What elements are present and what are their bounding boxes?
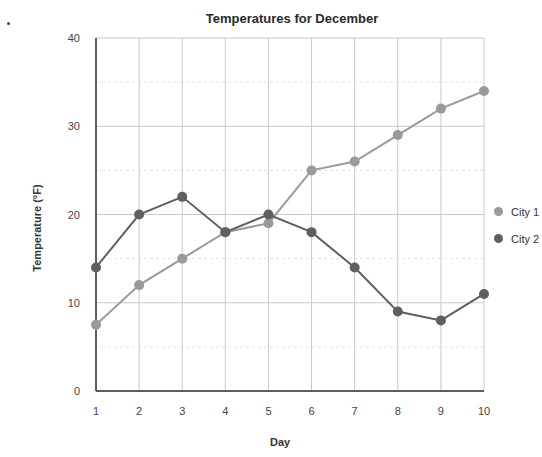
x-tick-label: 9 [438,405,444,417]
x-tick-label: 10 [478,405,490,417]
legend-item-city-1: City 1 [494,198,539,225]
data-point [479,86,489,96]
y-tick-label: 40 [68,32,80,44]
data-point [177,192,187,202]
y-tick-label: 30 [68,120,80,132]
y-axis-label: Temperature (°F) [31,173,43,283]
x-tick-label: 5 [265,405,271,417]
y-tick-label: 0 [74,385,80,397]
data-point [91,320,101,330]
x-tick-label: 6 [308,405,314,417]
data-point [479,289,489,299]
data-point [91,262,101,272]
data-point [307,227,317,237]
x-axis-label: Day [270,436,290,448]
data-point [436,315,446,325]
x-tick-label: 1 [93,405,99,417]
data-point [263,218,273,228]
plot-area: 01020304012345678910 [0,0,542,457]
data-point [393,130,403,140]
data-point [393,307,403,317]
data-point [134,280,144,290]
legend-swatch-icon [494,207,503,216]
x-tick-label: 2 [136,405,142,417]
data-point [220,227,230,237]
y-tick-label: 20 [68,209,80,221]
data-point [177,254,187,264]
y-tick-label: 10 [68,297,80,309]
data-point [307,165,317,175]
legend-label: City 2 [511,233,539,245]
legend-label: City 1 [511,206,539,218]
data-point [350,157,360,167]
legend-item-city-2: City 2 [494,225,539,252]
data-point [134,210,144,220]
data-point [436,104,446,114]
x-tick-label: 4 [222,405,228,417]
data-point [350,262,360,272]
data-point [263,210,273,220]
x-tick-label: 8 [395,405,401,417]
legend-swatch-icon [494,234,503,243]
legend: City 1 City 2 [494,198,539,252]
x-tick-label: 7 [352,405,358,417]
x-tick-label: 3 [179,405,185,417]
